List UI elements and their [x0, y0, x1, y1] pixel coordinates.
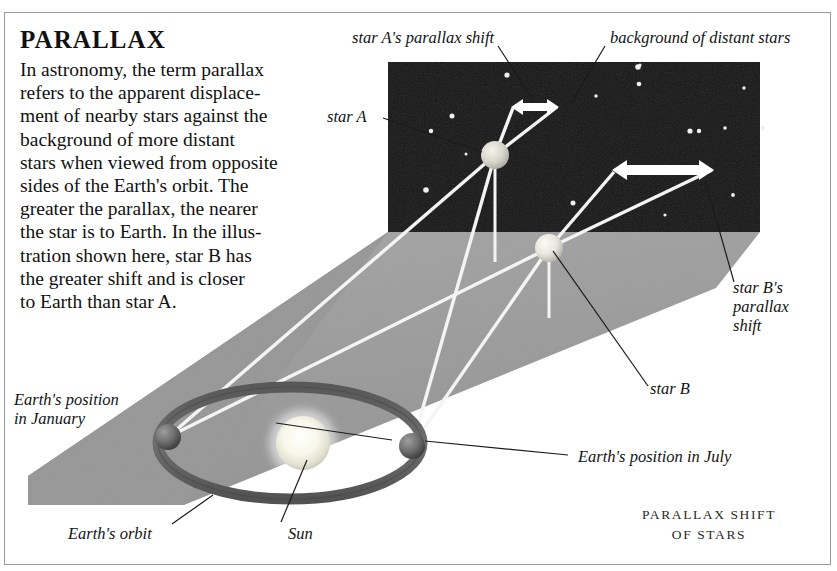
earth-july-sphere	[399, 433, 425, 459]
label-sun: Sun	[288, 524, 313, 543]
earth-january-sphere	[155, 424, 181, 450]
sun-sphere	[269, 409, 337, 477]
label-earth-position-july: Earth's position in July	[578, 447, 731, 466]
background-star-field	[388, 62, 765, 232]
label-star-a-parallax-shift: star A's parallax shift	[352, 28, 494, 47]
article-body: In astronomy, the term parallax refers t…	[20, 58, 292, 313]
parallax-diagram-page: PARALLAX In astronomy, the term parallax…	[0, 0, 837, 571]
page-title: PARALLAX	[20, 26, 166, 54]
star-a-sphere	[481, 141, 509, 169]
figure-caption: PARALLAX SHIFT OF STARS	[614, 505, 804, 545]
label-star-a: star A	[327, 107, 367, 126]
label-star-b-parallax-shift: star B's parallax shift	[733, 278, 828, 335]
label-background-distant-stars: background of distant stars	[610, 28, 790, 47]
label-earth-position-january: Earth's position in January	[14, 390, 119, 428]
label-star-b: star B	[650, 379, 690, 398]
star-b-sphere	[535, 234, 563, 262]
label-earth-orbit: Earth's orbit	[68, 524, 152, 543]
